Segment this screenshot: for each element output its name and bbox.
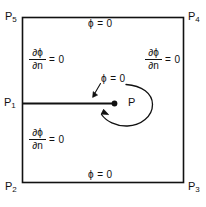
fraction-left-lower: ∂ϕ ∂n [29,128,46,151]
boundary-condition-right-equals: = 0 [165,54,180,65]
boundary-condition-right: ∂ϕ ∂n = 0 [145,48,180,71]
domain-boundary-rect [23,18,184,183]
corner-label-p1: P1 [4,97,16,110]
fraction-right-denominator: ∂n [147,61,160,72]
fraction-left-lower-denominator: ∂n [31,141,44,152]
slit-tip-label: P [128,97,135,108]
corner-label-p4: P4 [188,11,200,24]
corner-label-p2-sub: 2 [12,185,16,194]
corner-label-p3: P3 [188,181,200,194]
corner-label-p5-sub: 5 [12,15,16,24]
fraction-right-numerator: ∂ϕ [147,48,160,59]
slit-condition-label: ϕ = 0 [101,74,126,84]
slit-tip-point [112,101,118,107]
fraction-left-lower-numerator: ∂ϕ [31,128,44,139]
corner-label-p5: P5 [5,11,17,24]
fraction-right: ∂ϕ ∂n [145,48,162,71]
boundary-condition-left-upper-equals: = 0 [49,54,64,65]
corner-label-p3-sub: 3 [195,185,199,194]
boundary-condition-left-lower-equals: = 0 [49,134,64,145]
boundary-condition-left-upper: ∂ϕ ∂n = 0 [29,48,64,71]
boundary-condition-bottom: ϕ = 0 [88,170,113,180]
contour-loop-arc [102,85,153,127]
boundary-condition-top: ϕ = 0 [88,19,113,29]
contour-loop-arrowhead [101,109,108,114]
fraction-left-upper-denominator: ∂n [31,61,44,72]
corner-label-p1-sub: 1 [11,101,15,110]
corner-label-p2: P2 [5,181,17,194]
figure-canvas: P5 P4 P2 P3 P1 ϕ = 0 ϕ = 0 ∂ϕ ∂n = 0 ∂ϕ … [0,0,206,207]
fraction-left-upper-numerator: ∂ϕ [31,48,44,59]
corner-label-p4-sub: 4 [195,15,199,24]
boundary-condition-left-lower: ∂ϕ ∂n = 0 [29,128,64,151]
fraction-left-upper: ∂ϕ ∂n [29,48,46,71]
